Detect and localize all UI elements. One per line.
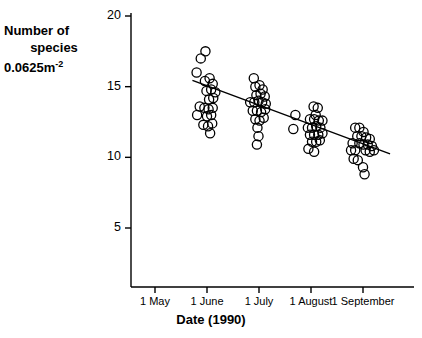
data-point <box>254 132 263 141</box>
x-tick-label: 1 September <box>332 295 395 307</box>
y-tick-label: 5 <box>95 220 121 234</box>
trendline-group <box>192 80 390 153</box>
x-axis-title: Date (1990) <box>0 312 422 327</box>
data-point <box>193 110 202 119</box>
y-tick-label: 15 <box>95 79 121 93</box>
data-point <box>252 140 261 149</box>
x-tick-marks <box>155 287 363 293</box>
x-tick-label: 1 June <box>190 295 223 307</box>
data-point <box>304 144 313 153</box>
y-tick-label: 20 <box>95 8 121 22</box>
x-tick-label: 1 May <box>140 295 170 307</box>
data-point <box>310 147 319 156</box>
data-points-group <box>192 47 379 179</box>
data-point <box>201 47 210 56</box>
x-tick-label: 1 July <box>245 295 274 307</box>
plot-canvas <box>0 0 422 338</box>
trendline <box>192 80 390 153</box>
scatter-plot-figure: Number of species 0.0625m-2 5101520 1 Ma… <box>0 0 422 338</box>
y-tick-label: 10 <box>95 149 121 163</box>
data-point <box>192 68 201 77</box>
data-point <box>289 124 298 133</box>
y-tick-marks <box>125 16 131 228</box>
x-tick-label: 1 August <box>290 295 333 307</box>
